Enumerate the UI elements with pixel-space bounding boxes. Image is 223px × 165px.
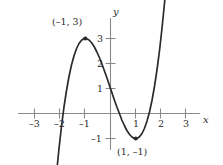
x-tick-label-neg2: –2 <box>54 119 65 129</box>
local-maximum-point <box>83 36 87 40</box>
local-maximum-label: (–1, 3) <box>52 17 82 27</box>
x-axis-label: x <box>203 115 209 125</box>
x-tick-label-3: 3 <box>183 119 189 129</box>
local-minimum-point <box>134 136 138 140</box>
local-minimum-label: (1, –1) <box>117 147 147 157</box>
y-tick-label-3: 3 <box>97 34 103 44</box>
x-tick-label-2: 2 <box>158 119 164 129</box>
cubic-function-plot <box>0 0 223 165</box>
y-axis-label: y <box>113 7 119 17</box>
x-tick-label-neg1: –1 <box>79 119 90 129</box>
graph-figure: –3 –2 –1 1 2 3 3 2 1 –1 y x (–1, 3) (1, … <box>0 0 223 165</box>
x-tick-label-1: 1 <box>133 119 139 129</box>
y-tick-label-1: 1 <box>97 84 103 94</box>
y-tick-label-2: 2 <box>97 59 103 69</box>
x-tick-label-neg3: –3 <box>29 119 40 129</box>
y-tick-label-neg1: –1 <box>91 134 102 144</box>
